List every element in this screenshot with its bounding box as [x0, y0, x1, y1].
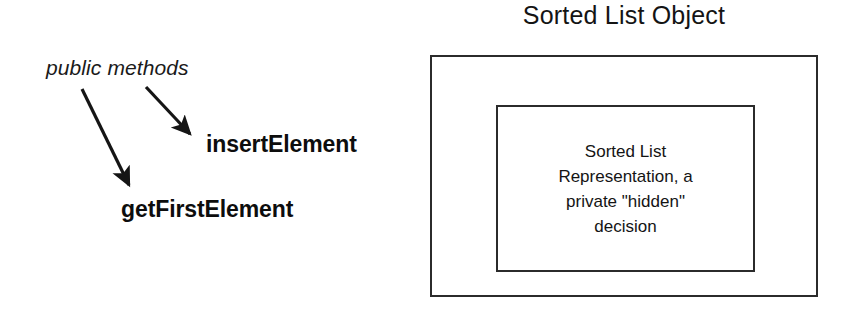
arrow-to-get-first-element [82, 89, 129, 185]
sorted-list-object-boundary: Sorted List Representation, a private "h… [430, 55, 818, 297]
arrow-to-insert-element [146, 87, 190, 134]
diagram-canvas: public methods insertElement getFirstEle… [0, 0, 856, 316]
method-label-insert-element: insertElement [206, 131, 357, 158]
sorted-list-object-title: Sorted List Object [430, 1, 818, 30]
sorted-list-representation-text: Sorted List Representation, a private "h… [550, 139, 700, 239]
method-label-get-first-element: getFirstElement [121, 196, 293, 223]
public-methods-annotation-label: public methods [46, 56, 189, 80]
sorted-list-representation-box: Sorted List Representation, a private "h… [496, 105, 755, 272]
